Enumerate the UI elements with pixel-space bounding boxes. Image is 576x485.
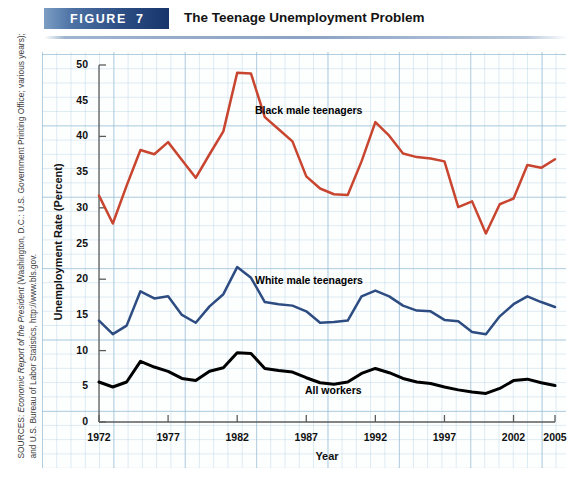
- y-axis-tick-label: 30: [42, 201, 88, 213]
- series-label-black-male-teenagers: Black male teenagers: [255, 104, 362, 116]
- chart-plot-area: 0510152025303540455019721977198219871992…: [42, 52, 566, 468]
- x-axis-tick-label: 1977: [148, 431, 188, 443]
- figure-badge: FIGURE 7: [44, 8, 169, 29]
- y-axis-tick-label: 0: [42, 415, 88, 427]
- chart-axes: [99, 65, 555, 422]
- y-axis-tick-label: 10: [42, 344, 88, 356]
- series-label-white-male-teenagers: White male teenagers: [255, 274, 363, 286]
- y-axis-tick-label: 25: [42, 237, 88, 249]
- x-axis-tick-label: 1997: [424, 431, 464, 443]
- y-axis-tick-label: 50: [42, 58, 88, 70]
- y-axis-tick-label: 15: [42, 308, 88, 320]
- sources-prefix: SOURCES:: [16, 412, 26, 458]
- figure-header: FIGURE 7 The Teenage Unemployment Proble…: [44, 8, 568, 38]
- x-axis-tick-label: 2005: [535, 431, 575, 443]
- y-axis-tick-label: 40: [42, 129, 88, 141]
- y-axis-tick-label: 5: [42, 379, 88, 391]
- x-axis-title: Year: [287, 450, 367, 462]
- sources-italic-title: Economic Report of the President: [16, 287, 26, 412]
- header-divider: [44, 36, 568, 39]
- figure-title: The Teenage Unemployment Problem: [184, 10, 425, 25]
- figure-badge-number: 7: [136, 12, 143, 26]
- y-axis-tick-label: 20: [42, 272, 88, 284]
- series-line-black-male-teenagers: [99, 73, 555, 234]
- x-axis-tick-label: 1987: [286, 431, 326, 443]
- series-label-all-workers: All workers: [305, 384, 362, 396]
- figure-badge-label: FIGURE: [70, 12, 127, 26]
- sources-caption: SOURCES: Economic Report of the Presiden…: [16, 29, 39, 459]
- y-axis-tick-label: 45: [42, 94, 88, 106]
- y-axis-tick-label: 35: [42, 165, 88, 177]
- x-axis-tick-label: 1982: [217, 431, 257, 443]
- x-axis-tick-label: 1992: [355, 431, 395, 443]
- x-axis-tick-label: 1972: [79, 431, 119, 443]
- y-axis-title: Unemployment Rate (Percent): [52, 142, 64, 342]
- x-axis-tick-label: 2002: [494, 431, 534, 443]
